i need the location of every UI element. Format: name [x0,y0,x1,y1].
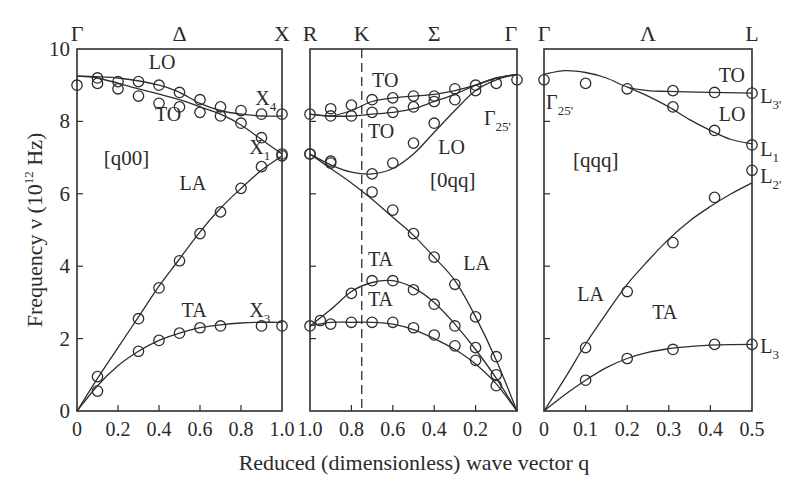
data-point-marker [429,252,439,262]
panel-q00: 00.20.40.60.81.0ΓΔXLOTOX4X1LATAX3[q00] [71,21,295,440]
panel-0qq: 1.00.80.60.40.20RKΣΓTOTOLOΓ25'[0qq]LATAT… [298,21,523,440]
data-point-marker [346,288,356,298]
branch-annotation: TO [155,103,181,125]
data-point-marker [154,80,164,90]
data-point-marker [326,158,336,168]
data-point-marker [709,339,719,349]
branch-annotation: LO [438,136,465,158]
branch-annotation: LA [180,172,207,194]
branch-annotation: L2' [760,165,781,192]
data-point-marker [450,94,460,104]
branch-annotation: Γ25' [546,91,573,118]
x-tick-label: 0.2 [106,418,131,440]
branch-annotation: LO [149,51,176,73]
branch-annotation: L3' [760,85,781,112]
branch-annotation: TA [368,288,394,310]
x-tick-label: 1.0 [298,418,323,440]
y-tick-label: 8 [60,109,71,133]
x-tick-label: 1.0 [270,418,295,440]
data-point-marker [747,339,757,349]
branch-annotation: TA [182,299,208,321]
x-tick-label: 0.6 [380,418,405,440]
branch-annotation: X1 [249,136,270,163]
data-point-marker [491,352,501,362]
data-point-marker [277,151,287,161]
data-point-marker [195,94,205,104]
direction-label: [qqq] [573,148,619,172]
data-point-marker [450,321,460,331]
data-point-marker [470,355,480,365]
data-point-marker [236,105,246,115]
data-point-marker [236,118,246,128]
data-point-marker [709,125,719,135]
data-point-marker [92,386,102,396]
data-point-marker [256,109,266,119]
y-tick-label: 4 [60,254,71,278]
data-point-marker [113,84,123,94]
branch-curve-ta-lower- [310,322,517,411]
data-point-marker [668,102,678,112]
data-point-marker [215,321,225,331]
data-point-marker [668,85,678,95]
symmetry-point-label: Γ [538,21,551,46]
data-point-marker [215,207,225,217]
data-point-marker [367,94,377,104]
data-point-marker [388,107,398,117]
x-tick-label: 0.4 [422,418,447,440]
direction-label: [0qq] [430,168,476,192]
data-point-marker [747,165,757,175]
data-point-marker [408,91,418,101]
branch-annotation: L3 [760,335,779,362]
data-point-marker [622,286,632,296]
data-point-marker [133,76,143,86]
data-point-marker [491,380,501,390]
data-point-marker [215,111,225,121]
branch-curve-la [544,183,752,411]
symmetry-point-label: Γ [504,21,517,46]
data-point-marker [154,335,164,345]
data-point-marker [195,107,205,117]
symmetry-point-label: L [745,21,758,46]
data-point-marker [388,158,398,168]
data-point-marker [429,118,439,128]
data-point-marker [346,111,356,121]
symmetry-point-label: K [354,21,370,46]
data-point-marker [174,87,184,97]
x-axis-label: Reduced (dimensionless) wave vector q [239,450,590,475]
data-point-marker [346,100,356,110]
data-point-marker [133,313,143,323]
y-axis-label: Frequency ν (1012 Hz) [21,133,47,328]
panel-qqq: 00.10.20.30.40.5ΓΛLTOLOΓ25'L3'L1L2'[qqq]… [538,21,782,440]
data-point-marker [668,237,678,247]
symmetry-point-label: X [274,21,290,46]
y-tick-label: 10 [49,37,70,61]
data-point-marker [277,109,287,119]
data-point-marker [388,317,398,327]
data-point-marker [133,346,143,356]
data-point-marker [367,187,377,197]
data-point-marker [622,353,632,363]
branch-annotation: LA [577,283,604,305]
symmetry-point-label: Λ [640,21,656,46]
data-point-marker [133,91,143,101]
data-point-marker [195,228,205,238]
direction-label: [q00] [104,146,149,170]
symmetry-point-label: R [303,21,318,46]
x-tick-label: 0.4 [147,418,172,440]
x-tick-label: 0.3 [656,418,681,440]
data-point-marker [256,161,266,171]
data-point-marker [388,275,398,285]
data-point-marker [470,342,480,352]
data-point-marker [195,323,205,333]
data-point-marker [72,80,82,90]
data-point-marker [92,371,102,381]
data-point-marker [580,342,590,352]
x-tick-label: 0.1 [573,418,598,440]
branch-annotation: LA [463,252,490,274]
branch-annotation: TA [368,248,394,270]
symmetry-point-label: Δ [172,21,186,46]
data-point-marker [429,96,439,106]
data-point-marker [709,87,719,97]
data-point-marker [408,285,418,295]
data-point-marker [305,321,315,331]
